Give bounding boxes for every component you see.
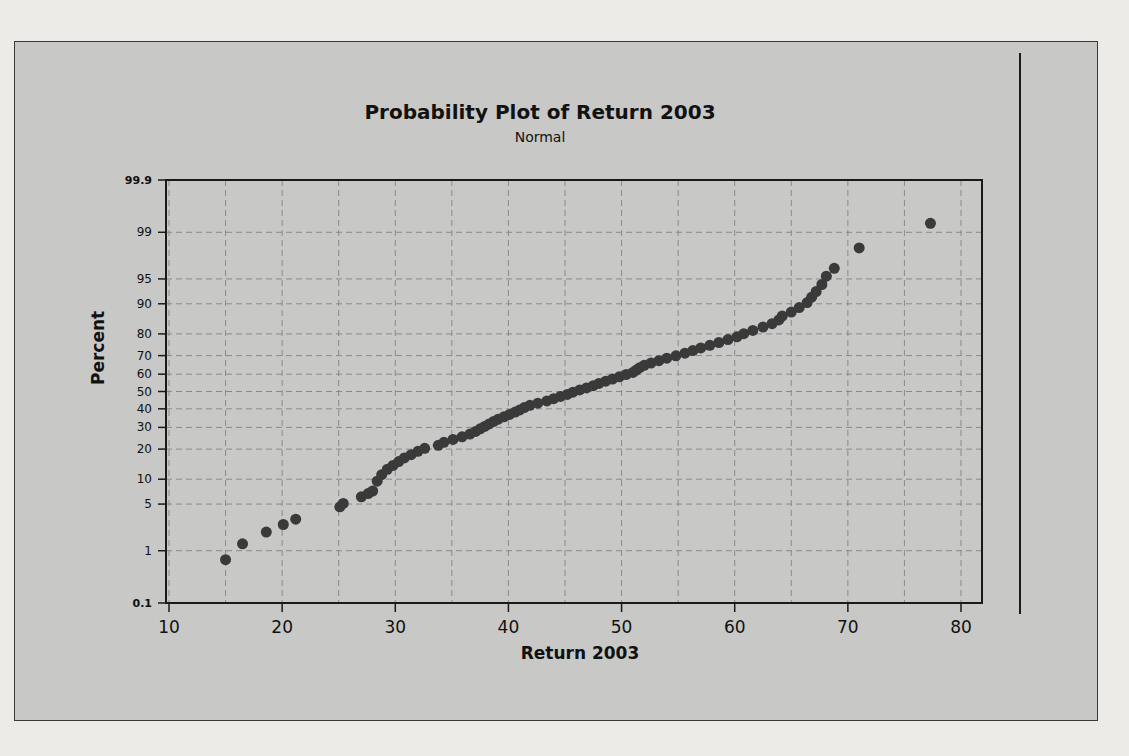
x-tick-label: 10 [158,617,180,637]
x-tick-label: 50 [611,617,633,637]
y-tick-label: 80 [137,327,152,341]
x-tick-label: 40 [498,617,520,637]
y-tick-label: 70 [137,349,152,363]
y-tick-label: 60 [137,367,152,381]
y-tick-label: 40 [137,402,152,416]
x-tick-label: 20 [271,617,293,637]
x-axis-ticks: 1020304050607080 [158,603,972,637]
data-point [278,519,289,530]
probability-plot: 0.115102030405060708090959999.9 10203040… [0,0,1129,756]
y-tick-label: 95 [137,272,152,286]
y-tick-label: 20 [137,442,152,456]
x-tick-label: 60 [724,617,746,637]
data-point [338,498,349,509]
data-point [925,218,936,229]
data-point [829,263,840,274]
data-point [220,554,231,565]
data-point [854,242,865,253]
y-tick-label: 1 [144,544,152,558]
data-point [419,443,430,454]
x-tick-label: 70 [837,617,859,637]
data-point [821,271,832,282]
y-tick-label: 99 [137,225,152,239]
y-tick-label: 99.9 [125,174,152,187]
y-tick-label: 0.1 [133,597,153,610]
data-point [261,527,272,538]
data-point [367,486,378,497]
x-tick-label: 30 [384,617,406,637]
y-tick-label: 10 [137,472,152,486]
data-point [747,325,758,336]
y-tick-label: 50 [137,385,152,399]
y-tick-label: 90 [137,297,152,311]
data-point [290,514,301,525]
y-axis-ticks: 0.115102030405060708090959999.9 [125,174,166,610]
x-tick-label: 80 [950,617,972,637]
data-point [237,538,248,549]
y-tick-label: 5 [144,497,152,511]
y-tick-label: 30 [137,420,152,434]
